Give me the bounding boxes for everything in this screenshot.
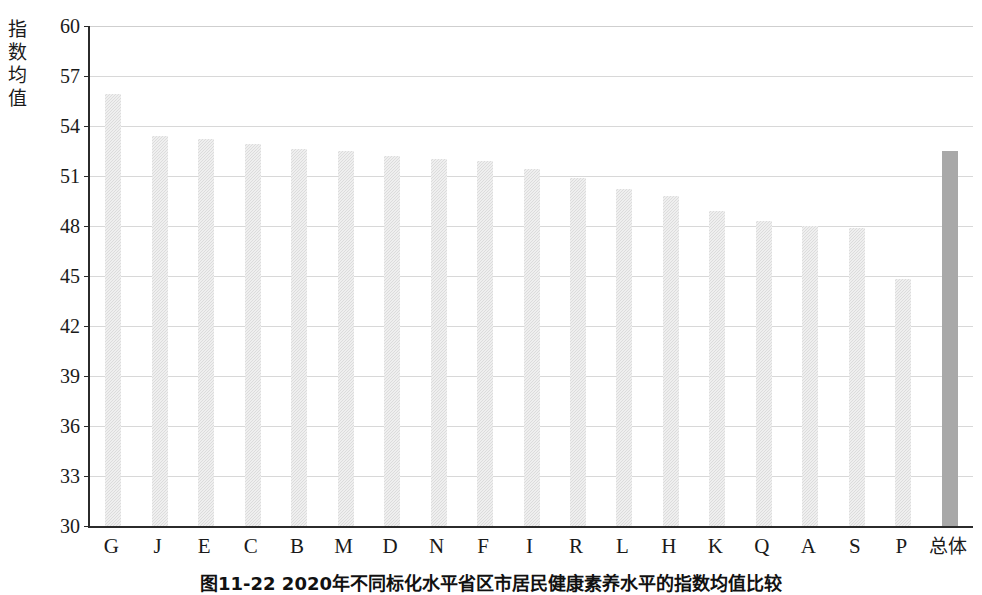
y-tick-label: 48 [60,216,80,236]
x-tick-label-总体: 总体 [929,532,967,560]
bar-J [152,136,168,526]
x-tick-label-E: E [198,532,211,560]
bar-F [477,161,493,526]
x-tick-label-J: J [154,532,162,560]
bar-E [198,139,214,526]
y-tick-label: 57 [60,66,80,86]
x-tick-label-P: P [895,532,907,560]
bar-I [524,169,540,526]
x-tick-label-G: G [104,532,119,560]
bar-H [663,196,679,526]
bar-R [570,178,586,526]
figure-caption: 图11-22 2020年不同标化水平省区市居民健康素养水平的指数均值比较 [0,572,982,595]
bar-P [895,279,911,526]
figure-container: 指 数 均 值 6057545148454239363330 GJECBMDNF… [0,0,982,595]
x-axis-labels: GJECBMDNFIRLHKQASP总体 [88,532,973,566]
bar-A [802,226,818,526]
x-tick-label-S: S [849,532,861,560]
x-tick-label-B: B [290,532,304,560]
y-axis-title-char-2: 数 [4,41,30,64]
y-tick-label: 51 [60,166,80,186]
y-axis-title-char-3: 均 [4,64,30,87]
bar-N [431,159,447,526]
y-tick-label: 30 [60,516,80,536]
bar-总体 [942,151,958,526]
bar-M [338,151,354,526]
bar-K [709,211,725,526]
x-tick-label-H: H [661,532,676,560]
x-tick-label-M: M [334,532,353,560]
y-tick-mark [84,526,90,527]
x-tick-label-N: N [429,532,444,560]
plot-area: 6057545148454239363330 [88,26,973,528]
x-tick-label-L: L [616,532,629,560]
y-tick-label: 42 [60,316,80,336]
y-tick-label: 36 [60,416,80,436]
bar-Q [756,221,772,526]
y-tick-label: 39 [60,366,80,386]
x-tick-label-R: R [569,532,583,560]
bars-layer [90,26,973,526]
x-tick-label-I: I [526,532,533,560]
y-tick-label: 33 [60,466,80,486]
x-tick-label-K: K [708,532,723,560]
y-axis-title-char-4: 值 [4,87,30,110]
bar-S [849,228,865,526]
x-tick-label-A: A [801,532,816,560]
x-tick-label-C: C [244,532,258,560]
y-tick-label: 45 [60,266,80,286]
bar-D [384,156,400,526]
bar-C [245,144,261,526]
bar-B [291,149,307,526]
y-axis-title: 指 数 均 值 [4,18,30,110]
y-tick-label: 54 [60,116,80,136]
bar-G [105,94,121,526]
x-tick-label-Q: Q [754,532,769,560]
y-axis-title-char-1: 指 [4,18,30,41]
y-tick-label: 60 [60,16,80,36]
x-tick-label-F: F [477,532,489,560]
bar-L [616,189,632,526]
x-tick-label-D: D [382,532,397,560]
